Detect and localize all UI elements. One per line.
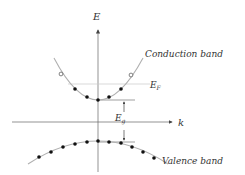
valence-band-label: Valence band — [162, 156, 223, 166]
electron-dot — [96, 139, 100, 143]
band-diagram: E k Conduction band Valence band EF Eg — [0, 0, 245, 175]
electron-dot — [107, 95, 111, 99]
band-gap-label: Eg — [114, 113, 126, 125]
fermi-level-label: EF — [149, 80, 162, 91]
electron-dot — [119, 141, 123, 145]
conduction-band-curve — [54, 58, 143, 100]
band-gap-label-sub: g — [122, 117, 126, 125]
electron-dot — [37, 155, 41, 159]
electron-dot — [73, 142, 77, 146]
empty-state-dot — [59, 72, 63, 76]
electron-dot — [107, 140, 111, 144]
electron-dot — [96, 98, 100, 102]
conduction-band-label: Conduction band — [145, 49, 223, 59]
electron-dot — [141, 150, 145, 154]
electron-dot — [130, 145, 134, 149]
electron-dot — [73, 87, 77, 91]
energy-axis-label: E — [92, 11, 101, 22]
fermi-level-label-sub: F — [156, 84, 162, 91]
electron-dot — [49, 150, 53, 154]
electron-dot — [61, 145, 65, 149]
k-axis-label: k — [178, 117, 184, 128]
electron-dot — [119, 87, 123, 91]
electron-dot — [85, 95, 89, 99]
empty-state-dot — [129, 73, 133, 77]
electron-dot — [85, 140, 89, 144]
electron-dot — [152, 156, 156, 160]
